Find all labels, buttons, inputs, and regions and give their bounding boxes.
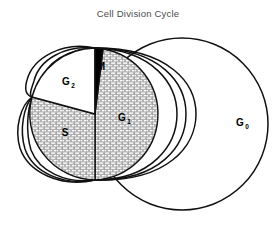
phase-label-g2: G	[62, 76, 70, 87]
phase-label-g1-subscript: 1	[127, 118, 131, 125]
cell-cycle-figure: Cell Division Cycle	[0, 0, 276, 236]
phase-wedge-group	[30, 48, 158, 180]
phase-label-s: S	[62, 127, 69, 138]
phase-label-m: M	[97, 61, 105, 72]
phase-label-g0: G	[236, 117, 244, 128]
phase-label-g0-subscript: 0	[245, 123, 249, 130]
phase-label-g1: G	[118, 112, 126, 123]
phase-label-g2-subscript: 2	[71, 82, 75, 89]
cell-cycle-diagram: G 2 M G 1 S G 0	[0, 0, 276, 236]
